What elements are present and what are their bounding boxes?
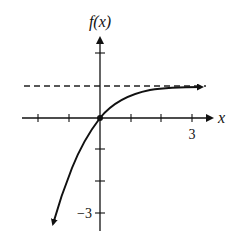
y-axis-label: f(x) [89, 13, 111, 31]
x-tick-label-3: 3 [189, 127, 196, 142]
function-graph: f(x) x 3 −3 [0, 0, 245, 234]
x-axis-label: x [217, 109, 225, 126]
origin-point [97, 115, 103, 121]
function-curve [100, 87, 202, 118]
y-tick-label-neg3: −3 [77, 206, 92, 221]
